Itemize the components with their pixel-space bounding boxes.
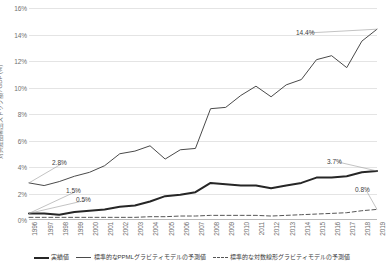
x-tick-label: 1998 <box>62 222 69 236</box>
x-tick-label: 2019 <box>379 222 386 236</box>
y-tick-label: 8% <box>18 111 27 118</box>
x-tick-label: 2008 <box>213 222 220 236</box>
y-axis-title: 対共産圏輸出ストック額 / GDP (%) <box>0 65 4 160</box>
x-tick-label: 2013 <box>289 222 296 236</box>
leader-line <box>29 191 77 213</box>
annotation-leader-lines <box>29 8 377 220</box>
x-tick-label: 2002 <box>122 222 129 236</box>
x-tick-label: 2004 <box>152 222 159 236</box>
x-tick-label: 2016 <box>334 222 341 236</box>
x-tick-label: 2018 <box>364 222 371 236</box>
x-tick-label: 2012 <box>273 222 280 236</box>
y-tick-label: 2% <box>18 190 27 197</box>
legend-item-loglinear[interactable]: 標準的な対数線形グラビティモデルの予測値 <box>213 252 351 261</box>
x-tick-label: 1997 <box>47 222 54 236</box>
legend-label-actual: 実績値 <box>51 252 69 261</box>
data-label-05: 0.5% <box>76 196 91 203</box>
y-tick-label: 0% <box>18 217 27 224</box>
y-tick-label: 12% <box>14 58 27 65</box>
data-label-28: 2.8% <box>52 159 67 166</box>
y-tick-label: 10% <box>14 84 27 91</box>
x-tick-label: 1996 <box>31 222 38 236</box>
legend-item-actual[interactable]: 実績値 <box>34 252 70 261</box>
x-tick-label: 2010 <box>243 222 250 236</box>
leader-line <box>307 29 377 33</box>
x-tick-label: 2003 <box>137 222 144 236</box>
data-label-144: 14.4% <box>296 29 314 36</box>
x-tick-label: 2009 <box>228 222 235 236</box>
x-tick-label: 2005 <box>168 222 175 236</box>
data-label-15: 1.5% <box>66 187 81 194</box>
x-tick-label: 2015 <box>319 222 326 236</box>
y-tick-label: 4% <box>18 164 27 171</box>
x-tick-label: 2001 <box>107 222 114 236</box>
plot-area <box>29 8 377 220</box>
legend: 実績値 標準的なPPMLグラビティモデルの予測値 標準的な対数線形グラビティモデ… <box>0 252 384 261</box>
x-tick-label: 2000 <box>92 222 99 236</box>
x-tick-label: 2007 <box>198 222 205 236</box>
data-label-08: 0.8% <box>355 186 370 193</box>
y-tick-label: 16% <box>14 5 27 12</box>
y-tick-label: 14% <box>14 31 27 38</box>
legend-item-ppml[interactable]: 標準的なPPMLグラビティモデルの予測値 <box>76 252 206 261</box>
x-tick-label: 2006 <box>183 222 190 236</box>
y-tick-label: 6% <box>18 137 27 144</box>
x-tick-label: 2011 <box>258 222 265 235</box>
leader-line <box>338 162 377 171</box>
x-tick-label: 2017 <box>349 222 356 236</box>
x-tick-label: 1999 <box>77 222 84 236</box>
legend-label-ppml: 標準的なPPMLグラビティモデルの予測値 <box>94 252 206 261</box>
legend-label-loglinear: 標準的な対数線形グラビティモデルの予測値 <box>230 252 350 261</box>
x-tick-label: 2014 <box>304 222 311 236</box>
data-label-37: 3.7% <box>327 158 342 165</box>
